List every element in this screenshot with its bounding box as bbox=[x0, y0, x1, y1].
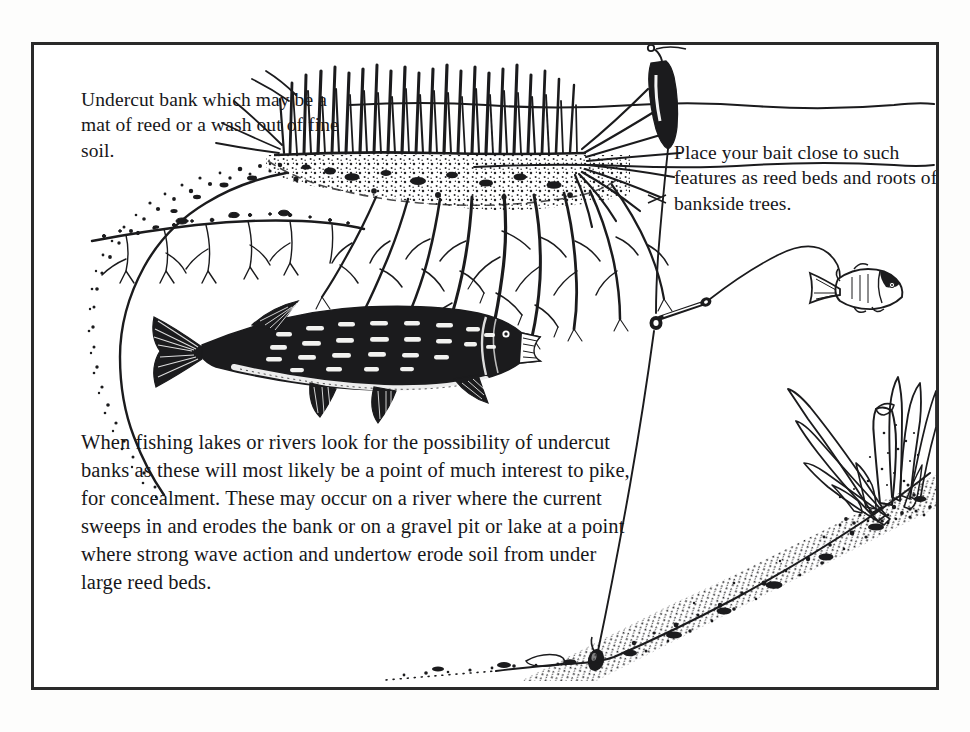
caption-bait-placement-text: Place your bait close to such features a… bbox=[674, 140, 939, 216]
pike-fish bbox=[153, 301, 540, 423]
fishing-trace bbox=[710, 246, 840, 299]
page-canvas: Undercut bank which may be a mat of reed… bbox=[0, 0, 970, 732]
caption-body-paragraph: When fishing lakes or rivers look for th… bbox=[81, 428, 631, 596]
caption-undercut-bank: Undercut bank which may be a mat of reed… bbox=[81, 87, 361, 163]
caption-undercut-bank-text: Undercut bank which may be a mat of reed… bbox=[81, 87, 361, 163]
caption-body-text: When fishing lakes or rivers look for th… bbox=[81, 428, 631, 596]
caption-bait-placement: Place your bait close to such features a… bbox=[674, 140, 939, 216]
swivel-link bbox=[650, 296, 713, 330]
float-bobber bbox=[648, 45, 686, 149]
illustration-frame: Undercut bank which may be a mat of reed… bbox=[31, 42, 939, 690]
bait-fish bbox=[810, 264, 902, 313]
bankside-root-lower bbox=[92, 210, 364, 283]
